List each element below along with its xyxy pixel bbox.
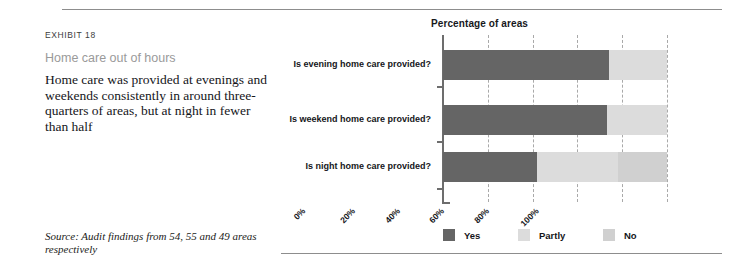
legend-label-no: No xyxy=(624,230,637,241)
category-label-3: Is night home care provided? xyxy=(305,161,431,171)
chart-title: Percentage of areas xyxy=(431,18,528,29)
exhibit-card: EXHIBIT 18 Home care out of hours Home c… xyxy=(0,0,741,269)
legend-item-yes[interactable]: Yes xyxy=(443,229,480,241)
x-tick-40pct: 40% xyxy=(383,206,402,225)
x-tick-20pct: 20% xyxy=(338,206,357,225)
exhibit-text-column: EXHIBIT 18 Home care out of hours Home c… xyxy=(45,30,267,134)
plot-region: Is evening home care provided?Is weekend… xyxy=(443,35,667,202)
bar-segment-partly xyxy=(537,152,618,182)
x-tick-0pct: 0% xyxy=(292,206,308,222)
top-divider xyxy=(62,9,722,10)
bottom-divider xyxy=(281,253,722,254)
legend-swatch-partly xyxy=(518,229,530,241)
legend-swatch-no xyxy=(603,229,615,241)
chart-area: Percentage of areas Is evening home care… xyxy=(281,16,722,251)
legend-item-no[interactable]: No xyxy=(603,229,637,241)
y-axis-tick xyxy=(437,188,443,190)
category-label-2: Is weekend home care provided? xyxy=(289,114,431,124)
y-axis-tick xyxy=(437,86,443,88)
bar-3 xyxy=(443,152,667,182)
exhibit-blurb: Home care was provided at evenings and w… xyxy=(45,72,267,134)
legend-label-partly: Partly xyxy=(539,230,565,241)
x-tick-60pct: 60% xyxy=(427,206,446,225)
bar-2 xyxy=(443,105,667,135)
legend-item-partly[interactable]: Partly xyxy=(518,229,565,241)
x-tick-100pct: 100% xyxy=(518,206,540,228)
bar-segment-partly xyxy=(609,50,667,80)
exhibit-subtitle: Home care out of hours xyxy=(45,51,267,65)
x-tick-80pct: 80% xyxy=(472,206,491,225)
bar-segment-partly xyxy=(607,105,667,135)
bar-segment-yes xyxy=(443,152,537,182)
bar-segment-yes xyxy=(443,50,609,80)
legend-label-yes: Yes xyxy=(464,230,480,241)
exhibit-number: EXHIBIT 18 xyxy=(45,30,267,40)
gridline xyxy=(667,35,668,202)
legend-swatch-yes xyxy=(443,229,455,241)
y-axis-tick xyxy=(437,141,443,143)
category-label-1: Is evening home care provided? xyxy=(293,59,431,69)
bar-segment-yes xyxy=(443,105,607,135)
x-axis-origin-tick xyxy=(442,202,450,204)
bar-segment-no xyxy=(618,152,667,182)
bar-1 xyxy=(443,50,667,80)
exhibit-source-note: Source: Audit findings from 54, 55 and 4… xyxy=(45,230,280,255)
